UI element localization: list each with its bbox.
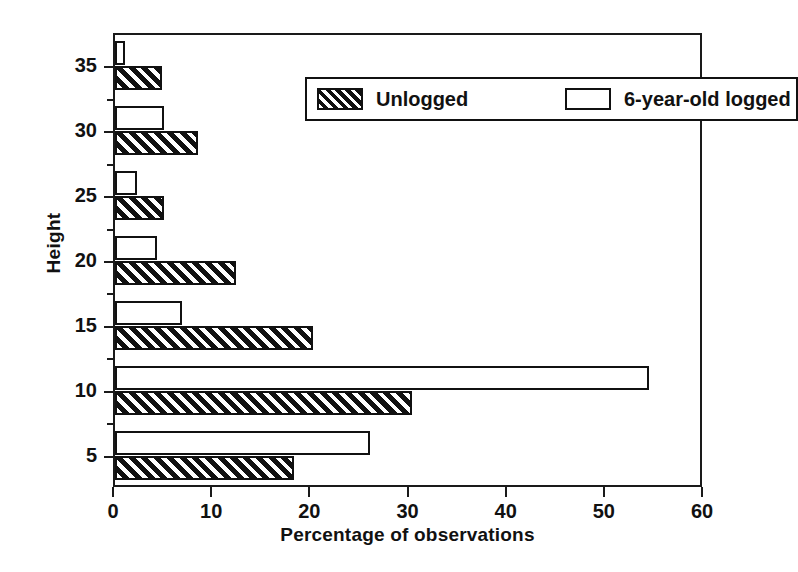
- x-axis-tick: [603, 487, 605, 497]
- x-axis-tick: [407, 487, 409, 497]
- bar-unlogged-20: [115, 261, 236, 285]
- hatched-swatch-icon: [317, 88, 363, 110]
- y-axis-tick-label: 30: [51, 120, 97, 140]
- y-axis-tick-label: 10: [51, 380, 97, 400]
- x-axis-tick-label: 30: [383, 501, 433, 521]
- x-axis-tick-label: 60: [677, 501, 727, 521]
- y-axis-tick: [104, 196, 115, 198]
- chart-legend: Unlogged 6-year-old logged: [305, 77, 798, 121]
- x-axis-tick: [210, 487, 212, 497]
- y-axis-tick-label: 35: [51, 55, 97, 75]
- x-axis-tick-label: 20: [284, 501, 334, 521]
- bar-logged-5: [115, 431, 370, 455]
- bar-logged-30: [115, 106, 164, 130]
- bar-unlogged-15: [115, 326, 313, 350]
- bar-logged-25: [115, 171, 137, 195]
- y-axis-minor-tick: [107, 358, 115, 360]
- bar-logged-20: [115, 236, 157, 260]
- plot-area: Unlogged 6-year-old logged: [113, 33, 702, 487]
- bar-unlogged-25: [115, 196, 164, 220]
- y-axis-minor-tick: [107, 164, 115, 166]
- bar-logged-35: [115, 41, 125, 65]
- y-axis-minor-tick: [107, 229, 115, 231]
- y-axis-tick: [104, 326, 115, 328]
- y-axis-tick: [104, 456, 115, 458]
- bar-unlogged-35: [115, 66, 162, 90]
- x-axis-tick-label: 10: [186, 501, 236, 521]
- y-axis-tick-label: 15: [51, 315, 97, 335]
- legend-label-unlogged: Unlogged: [376, 88, 468, 111]
- x-axis-tick: [701, 487, 703, 497]
- bar-logged-15: [115, 301, 182, 325]
- legend-item-logged: 6-year-old logged: [565, 79, 791, 119]
- y-axis-tick-label: 5: [51, 445, 97, 465]
- y-axis-tick-label: 20: [51, 250, 97, 270]
- x-axis-tick-label: 50: [579, 501, 629, 521]
- bar-unlogged-10: [115, 391, 412, 415]
- legend-label-logged: 6-year-old logged: [624, 88, 791, 111]
- open-swatch-icon: [565, 88, 611, 110]
- bar-unlogged-30: [115, 131, 198, 155]
- y-axis-minor-tick: [107, 423, 115, 425]
- y-axis-tick-label: 25: [51, 185, 97, 205]
- x-axis-tick: [112, 487, 114, 497]
- x-axis-tick: [308, 487, 310, 497]
- x-axis-tick-label: 40: [481, 501, 531, 521]
- y-axis-minor-tick: [107, 99, 115, 101]
- legend-item-unlogged: Unlogged: [317, 79, 468, 119]
- y-axis-minor-tick: [107, 293, 115, 295]
- x-axis-title: Percentage of observations: [113, 524, 702, 546]
- y-axis-tick: [104, 131, 115, 133]
- x-axis-tick: [505, 487, 507, 497]
- y-axis-tick: [104, 261, 115, 263]
- bar-logged-10: [115, 366, 649, 390]
- bar-unlogged-5: [115, 456, 294, 480]
- x-axis-tick-label: 0: [88, 501, 138, 521]
- y-axis-tick: [104, 391, 115, 393]
- y-axis-tick: [104, 66, 115, 68]
